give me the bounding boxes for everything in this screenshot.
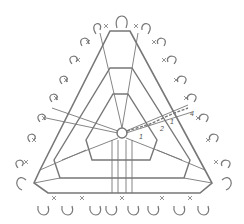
row-label: 4 <box>190 110 194 117</box>
outer-round <box>34 31 212 193</box>
center-ring <box>117 128 127 138</box>
starting-chain <box>127 108 188 131</box>
single-crochet-marks <box>24 24 218 200</box>
picot-loops <box>16 16 231 215</box>
crochet-chart-svg <box>0 0 244 224</box>
row-label: 2 <box>160 125 164 132</box>
row-label: 1 <box>170 118 174 125</box>
row-label: 1 <box>139 133 143 140</box>
spokes <box>34 33 212 193</box>
